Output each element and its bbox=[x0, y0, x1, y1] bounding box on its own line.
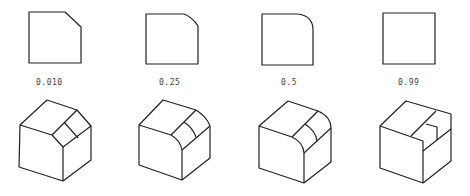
profile-small-round bbox=[146, 14, 198, 64]
cube-sharp bbox=[380, 101, 451, 183]
profile-sharp bbox=[383, 13, 435, 64]
cube-chamfer bbox=[19, 100, 91, 181]
profile-chamfer bbox=[29, 12, 81, 63]
profile-round bbox=[262, 14, 313, 65]
panel-label-2: 0.25 bbox=[159, 78, 180, 87]
cube-small-round bbox=[139, 100, 210, 180]
cube-round bbox=[259, 101, 331, 183]
figure-canvas bbox=[0, 0, 470, 196]
panel-label-4: 0.99 bbox=[398, 78, 419, 87]
panel-label-1: 0.010 bbox=[36, 78, 63, 87]
panel-label-3: 0.5 bbox=[281, 78, 297, 87]
